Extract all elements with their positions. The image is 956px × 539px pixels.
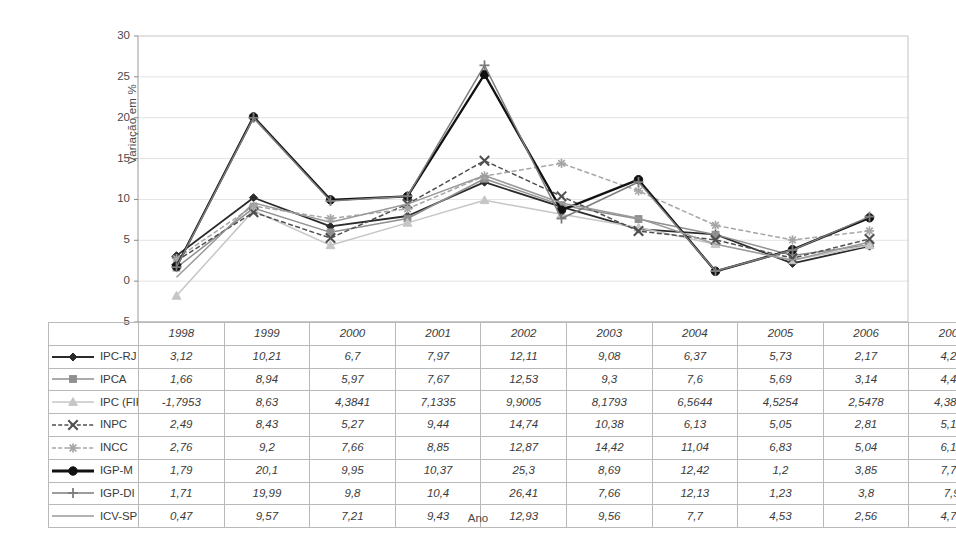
legend-marker-inpc	[51, 419, 95, 431]
legend-label: IPCA	[100, 374, 126, 386]
table-row: IGP-M1,7920,19,9510,3725,38,6912,421,23,…	[49, 459, 956, 482]
table-cell: 12,42	[652, 459, 738, 482]
legend-label: IGP-M	[100, 465, 133, 477]
table-row: INCC2,769,27,668,8512,8714,4211,046,835,…	[49, 436, 956, 459]
legend-marker-igp-m	[51, 465, 95, 477]
series-igp-m	[172, 70, 873, 275]
table-cell: 12,53	[481, 368, 567, 391]
legend-entry[interactable]: IPC-RJ	[49, 345, 139, 368]
table-cell: 7,97	[395, 345, 481, 368]
table-column-header: 1999	[224, 323, 310, 346]
y-tick-label: 0	[96, 274, 130, 286]
table-column-header: 2007	[909, 323, 956, 346]
table-cell: 25,3	[481, 459, 567, 482]
legend-marker-ipc-fipe-	[51, 396, 95, 408]
table-cell: 10,21	[224, 345, 310, 368]
table-cell: 9,44	[395, 414, 481, 437]
table-cell: 4,5254	[738, 391, 824, 414]
table-cell: 12,87	[481, 436, 567, 459]
data-table: 1998199920002001200220032004200520062007…	[48, 322, 956, 528]
table-cell: 5,69	[738, 368, 824, 391]
table-cell: 3,14	[823, 368, 909, 391]
table-column-header: 2000	[310, 323, 396, 346]
table-cell: 7,9	[909, 482, 956, 505]
table-cell: 12,11	[481, 345, 567, 368]
y-tick-label: 5	[96, 233, 130, 245]
legend-marker-ipc-rj	[51, 351, 95, 363]
table-cell: 1,71	[139, 482, 225, 505]
table-column-header: 2005	[738, 323, 824, 346]
legend-entry[interactable]: IGP-DI	[49, 482, 139, 505]
table-cell: 4,46	[909, 368, 956, 391]
table-cell: 7,66	[310, 436, 396, 459]
table-cell: 6,5644	[652, 391, 738, 414]
legend-entry[interactable]: INPC	[49, 414, 139, 437]
chart-canvas	[0, 0, 956, 330]
table-cell: 4,28	[909, 345, 956, 368]
legend-marker-incc	[51, 442, 95, 454]
table-cell: 14,42	[566, 436, 652, 459]
table-cell: 12,13	[652, 482, 738, 505]
marker-diamond	[69, 353, 77, 361]
table-cell: 8,94	[224, 368, 310, 391]
table-cell: 7,1335	[395, 391, 481, 414]
y-tick-label: 30	[96, 29, 130, 41]
marker-circle	[69, 466, 77, 474]
table-cell: 8,63	[224, 391, 310, 414]
table-cell: 4,3841	[310, 391, 396, 414]
table-cell: 2,49	[139, 414, 225, 437]
table-column-header: 2004	[652, 323, 738, 346]
table-cell: 6,37	[652, 345, 738, 368]
table-column-header: 2002	[481, 323, 567, 346]
table-cell: 26,41	[481, 482, 567, 505]
table-cell: 1,23	[738, 482, 824, 505]
series-icv-sp	[177, 175, 870, 277]
y-tick-label: 15	[96, 152, 130, 164]
legend-entry[interactable]: IGP-M	[49, 459, 139, 482]
table-cell: 9,8	[310, 482, 396, 505]
chart-figure: Variação em % 302520151050-5 19981999200…	[0, 0, 956, 539]
table-column-header: 2003	[566, 323, 652, 346]
table-cell: 1,79	[139, 459, 225, 482]
table-cell: 9,9005	[481, 391, 567, 414]
table-cell: 1,2	[738, 459, 824, 482]
table-row: IGP-DI1,7119,999,810,426,417,6612,131,23…	[49, 482, 956, 505]
table-cell: 2,5478	[823, 391, 909, 414]
table-cell: 5,73	[738, 345, 824, 368]
legend-entry[interactable]: IPCA	[49, 368, 139, 391]
table-cell: 8,69	[566, 459, 652, 482]
table-cell: 14,74	[481, 414, 567, 437]
table-corner-cell	[49, 323, 139, 346]
table-cell: 9,08	[566, 345, 652, 368]
table-cell: 2,76	[139, 436, 225, 459]
marker-square	[70, 376, 77, 383]
table-cell: 1,66	[139, 368, 225, 391]
x-axis-title: Ano	[0, 512, 956, 524]
table-cell: 6,13	[652, 414, 738, 437]
table-cell: 3,8	[823, 482, 909, 505]
legend-entry[interactable]: INCC	[49, 436, 139, 459]
table-cell: 6,83	[738, 436, 824, 459]
series-line	[177, 163, 870, 258]
table-cell: -1,7953	[139, 391, 225, 414]
y-tick-label: 20	[96, 111, 130, 123]
table-cell: 20,1	[224, 459, 310, 482]
table-cell: 10,38	[566, 414, 652, 437]
table-column-header: 1998	[139, 323, 225, 346]
table-cell: 4,3821	[909, 391, 956, 414]
table-cell: 10,4	[395, 482, 481, 505]
table-cell: 3,12	[139, 345, 225, 368]
series-line	[177, 74, 870, 271]
legend-label: IGP-DI	[100, 488, 135, 500]
table-cell: 9,95	[310, 459, 396, 482]
legend-label: IPC-RJ	[100, 351, 136, 363]
series-igp-di	[172, 60, 875, 276]
table-cell: 6,7	[310, 345, 396, 368]
table-row: IPC-RJ3,1210,216,77,9712,119,086,375,732…	[49, 345, 956, 368]
table-cell: 8,1793	[566, 391, 652, 414]
table-row: INPC2,498,435,279,4414,7410,386,135,052,…	[49, 414, 956, 437]
table-cell: 2,81	[823, 414, 909, 437]
table-cell: 5,04	[823, 436, 909, 459]
legend-label: IPC (FIPE)	[100, 397, 139, 409]
legend-entry[interactable]: IPC (FIPE)	[49, 391, 139, 414]
